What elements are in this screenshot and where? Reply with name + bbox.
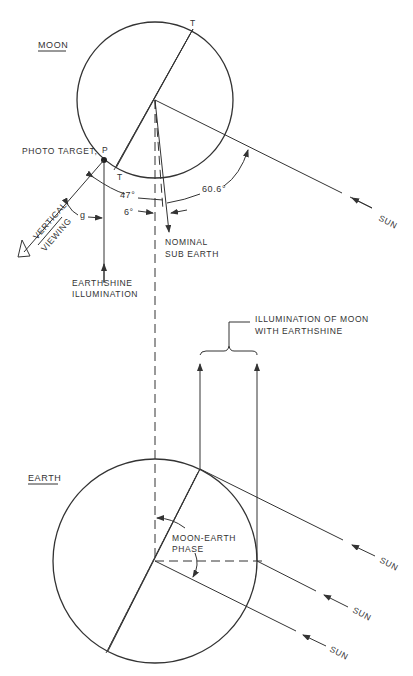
moon-group: MOON T T SUN NOMINAL SUB EARTH PHOTO TAR… [18,18,399,561]
moon-terminator-label-top: T [190,18,196,28]
eye-icon [18,240,30,257]
earth-sun-label-3: SUN [328,644,350,662]
moon-sun-arrow [352,198,372,208]
angle-60-label: 60.6° [202,184,226,194]
moon-terminator-label-bottom: T [117,172,123,182]
angle-6-arrow-right [171,210,187,213]
moon-sun-label: SUN [377,213,399,231]
moon-title: MOON [38,40,68,50]
bracket-label-line1: ILLUMINATION OF MOON [255,314,369,324]
phase-arc-bottom [193,553,197,577]
earth-sun-label-1: SUN [378,555,400,573]
earthshine-line1: EARTHSHINE [72,278,133,288]
sub-earth-dashed [155,100,163,210]
angle-g-arc [68,205,78,215]
bracket-leader [229,322,250,346]
earthshine-line2: ILLUMINATION [72,289,138,299]
earth-sun-ray-2 [257,561,316,591]
bracket-label-line2: WITH EARTHSHINE [255,326,343,336]
angle-6-label: 6° [124,207,134,217]
bracket-brace [200,346,257,355]
photo-target-label: PHOTO TARGET, [22,146,97,156]
angle-g-label: g [80,210,86,220]
angle-g-arrow [88,217,102,218]
earthshine-geometry-diagram: MOON T T SUN NOMINAL SUB EARTH PHOTO TAR… [0,0,413,676]
moon-terminator-hatching [114,29,193,170]
earth-sun-arrow-2 [324,595,348,607]
earth-title: EARTH [28,473,61,483]
angle-6-arrow-left [138,211,153,213]
phase-label-line2: PHASE [172,544,204,554]
nominal-sub-earth-line1: NOMINAL [165,237,208,247]
earth-sun-ray-1 [200,469,343,540]
earth-sun-arrow-3 [303,635,326,646]
angle-47-label: 47° [120,190,135,200]
photo-target-point-label: P [102,145,108,155]
angle-47-arc-b [138,198,163,200]
angle-60-arc-b [224,150,248,186]
phase-label-line1: MOON-EARTH [172,533,236,543]
nominal-sub-earth-line2: SUB EARTH [165,249,219,259]
moon-sun-ray [155,100,342,193]
earth-sun-arrow-1 [352,545,375,556]
nominal-sub-earth-arrow [155,100,169,232]
earth-sun-label-2: SUN [351,605,373,623]
angle-60-arc-a [167,194,200,203]
earthshine-bracket-group: ILLUMINATION OF MOON WITH EARTHSHINE [200,314,369,561]
earth-group: EARTH SUN SUN SUN MOON-EARTH PHASE [28,459,400,663]
earth-sun-ray-3 [155,561,296,631]
